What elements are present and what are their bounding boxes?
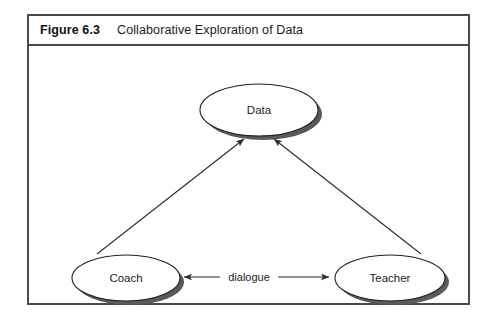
edge-label-dialogue: dialogue bbox=[228, 271, 270, 283]
figure-caption-bar: Figure 6.3 Collaborative Exploration of … bbox=[29, 16, 468, 46]
figure-frame: Figure 6.3 Collaborative Exploration of … bbox=[27, 14, 470, 305]
node-coach-label: Coach bbox=[109, 272, 142, 284]
edge-teacher-to-data bbox=[274, 139, 421, 254]
figure-number: Figure 6.3 bbox=[40, 23, 100, 37]
node-data-label: Data bbox=[247, 104, 272, 116]
edge-coach-to-data bbox=[97, 139, 244, 254]
node-teacher-label: Teacher bbox=[370, 272, 411, 284]
diagram-canvas: dialogue Data Coach Teacher bbox=[29, 46, 468, 305]
node-data[interactable]: Data bbox=[200, 84, 322, 140]
collaborative-exploration-diagram: dialogue Data Coach Teacher bbox=[29, 46, 468, 305]
edge-coach-teacher-dialogue: dialogue bbox=[184, 271, 329, 283]
figure-title: Collaborative Exploration of Data bbox=[117, 23, 303, 37]
node-teacher[interactable]: Teacher bbox=[335, 255, 449, 305]
node-coach[interactable]: Coach bbox=[72, 255, 184, 305]
